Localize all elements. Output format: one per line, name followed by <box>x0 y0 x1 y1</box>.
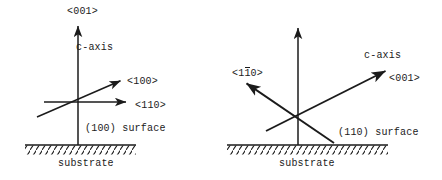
label-diagonal-axis-100: <100> <box>127 76 158 87</box>
label-substrate: substrate <box>58 158 114 169</box>
crystal-orientation-figure: <001> c-axis <100> <110> (100) surface s… <box>0 0 442 180</box>
label-horizontal-axis-110: <110> <box>135 100 166 111</box>
panel-100-surface: <001> c-axis <100> <110> (100) surface s… <box>0 0 221 180</box>
substrate-hatching <box>25 146 136 155</box>
label-c-axis: c-axis <box>364 50 401 61</box>
panel-110-axes-drawing <box>221 0 442 180</box>
in-plane-axis-prefix: <1 <box>232 68 244 79</box>
in-plane-axis-overbar-digit: 1 <box>244 68 250 79</box>
in-plane-axis-suffix: 0> <box>251 68 263 79</box>
panel-100-axes-drawing <box>0 0 221 180</box>
substrate-hatching <box>227 146 388 155</box>
label-vertical-axis-001: <001> <box>67 6 98 17</box>
in-plane-axis-line <box>247 83 335 143</box>
label-in-plane-axis-1bar10: <110> <box>232 68 263 79</box>
label-c-axis-direction-001: <001> <box>389 73 420 84</box>
label-substrate: substrate <box>279 158 335 169</box>
c-axis-line <box>266 71 386 131</box>
label-c-axis: c-axis <box>76 42 113 53</box>
label-surface-plane: (110) surface <box>338 127 419 138</box>
panel-110-surface: c-axis <001> <110> (110) surface substra… <box>221 0 442 180</box>
label-surface-plane: (100) surface <box>85 123 166 134</box>
